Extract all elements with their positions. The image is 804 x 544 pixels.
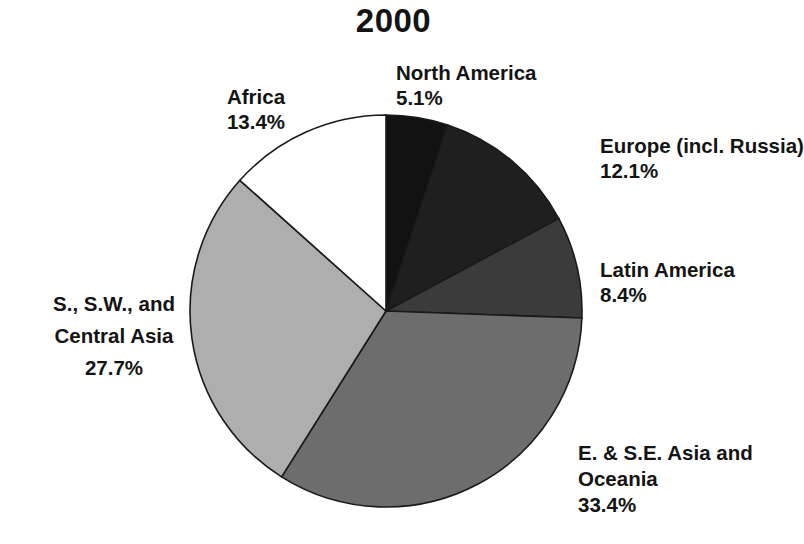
- slice-label-north-america: North America 5.1%: [396, 60, 537, 110]
- pie-slice-group: [190, 115, 582, 507]
- slice-label-text-2: Oceania: [578, 466, 778, 492]
- slice-label-percent: 5.1%: [396, 85, 537, 110]
- slice-label-s-asia: S., S.W., and Central Asia 27.7%: [6, 291, 222, 381]
- slice-label-europe: Europe (incl. Russia) 12.1%: [600, 133, 804, 183]
- slice-label-text: Africa: [227, 85, 285, 108]
- slice-label-text: E. & S.E. Asia and: [578, 441, 753, 464]
- slice-label-latin-america: Latin America 8.4%: [600, 257, 735, 307]
- slice-label-percent: 12.1%: [600, 158, 804, 183]
- slice-label-percent: 13.4%: [196, 109, 316, 134]
- slice-label-text: North America: [396, 61, 537, 84]
- slice-label-text: S., S.W., and: [53, 292, 175, 315]
- slice-label-percent: 27.7%: [6, 355, 222, 381]
- slice-label-percent: 33.4%: [578, 492, 778, 518]
- slice-label-text: Latin America: [600, 258, 735, 281]
- slice-label-ese-asia: E. & S.E. Asia and Oceania 33.4%: [578, 440, 778, 518]
- slice-label-text-2: Central Asia: [6, 323, 222, 349]
- slice-label-text: Europe (incl. Russia): [600, 134, 804, 157]
- slice-label-africa: Africa 13.4%: [196, 84, 316, 134]
- slice-label-percent: 8.4%: [600, 282, 735, 307]
